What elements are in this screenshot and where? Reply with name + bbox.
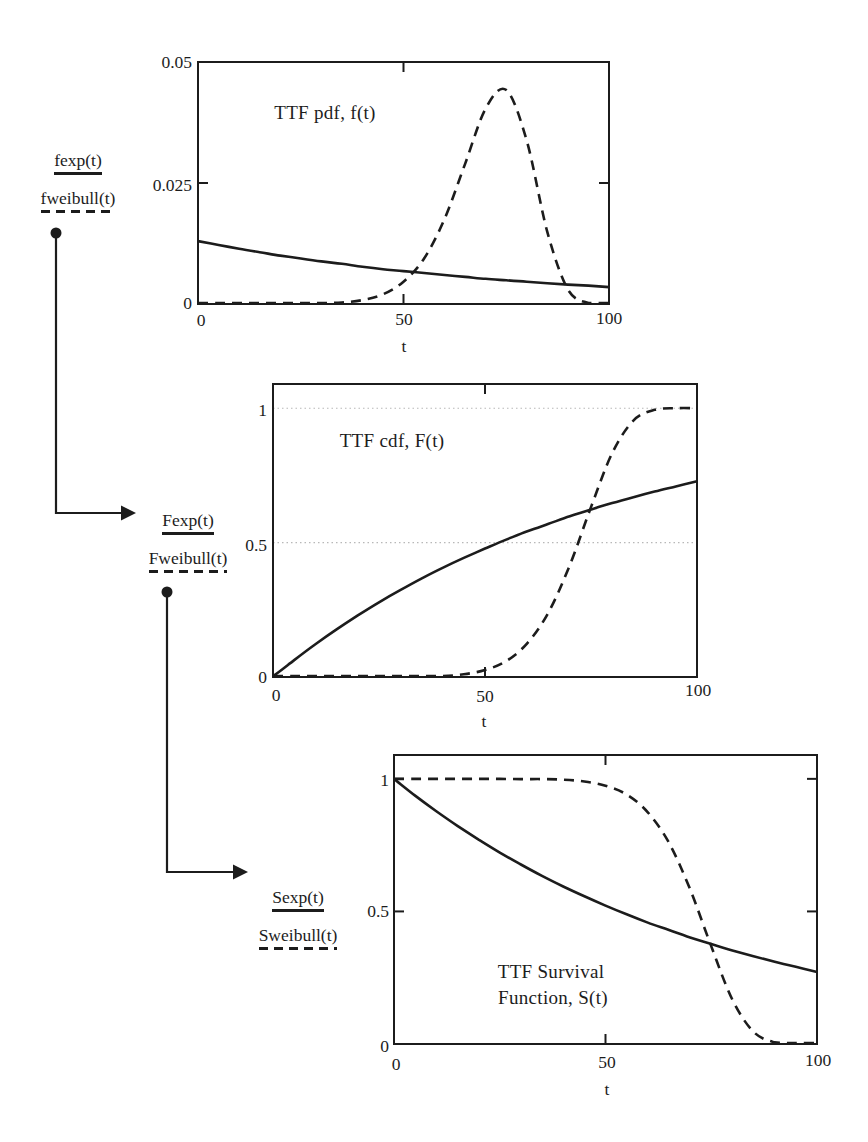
pdf-legend: fexp(t) fweibull(t) — [40, 150, 116, 213]
survival-ytick-0.5: 0.5 — [367, 903, 389, 921]
connector-pdf-to-cdf-legend-line — [56, 233, 123, 513]
survival-legend-item-weibull: Sweibull(t) — [259, 925, 338, 950]
pdf-xaxis-label: t — [402, 338, 407, 356]
pdf-legend-item-weibull: fweibull(t) — [41, 188, 116, 213]
cdf-chart-title: TTF cdf, F(t) — [340, 431, 445, 450]
cdf-xaxis-label: t — [482, 713, 487, 731]
cdf-ytick-0: 0 — [258, 669, 267, 687]
dashed-line-key-icon — [259, 947, 338, 950]
cdf-legend-label-exp: Fexp(t) — [162, 510, 214, 530]
cdf-xtick-50: 50 — [476, 688, 494, 706]
cdf-legend-item-weibull: Fweibull(t) — [149, 548, 228, 573]
cdf-legend-label-weibull: Fweibull(t) — [149, 548, 228, 568]
survival-legend-item-exp: Sexp(t) — [272, 887, 324, 912]
ttf-pdf-plot-frame — [198, 62, 609, 304]
ttf-cdf-weibull-curve-dashed — [273, 408, 697, 676]
pdf-ytick-0.025: 0.025 — [153, 177, 192, 195]
survival-xtick-0: 0 — [392, 1056, 401, 1074]
survival-legend: Sexp(t) Sweibull(t) — [251, 887, 345, 950]
survival-chart-title-line1: TTF Survival — [498, 962, 605, 981]
survival-xtick-50: 50 — [598, 1054, 616, 1072]
survival-xaxis-label: t — [605, 1081, 610, 1099]
cdf-legend: Fexp(t) Fweibull(t) — [144, 510, 232, 573]
pdf-legend-item-exp: fexp(t) — [54, 150, 102, 175]
ttf-cdf-exp-curve-solid — [273, 481, 697, 676]
survival-legend-label-weibull: Sweibull(t) — [259, 925, 338, 945]
cdf-xtick-100: 100 — [685, 682, 711, 700]
solid-line-key-icon — [54, 172, 102, 175]
pdf-ytick-0: 0 — [183, 295, 192, 313]
solid-line-key-icon — [162, 532, 214, 535]
cdf-xtick-0: 0 — [272, 687, 281, 705]
cdf-ytick-0.5: 0.5 — [245, 537, 267, 555]
pdf-legend-label-exp: fexp(t) — [54, 150, 102, 170]
pdf-legend-label-weibull: fweibull(t) — [41, 188, 116, 208]
connector-pdf-to-cdf-legend-arrowhead-icon — [121, 506, 136, 521]
connector-cdf-to-survival-legend-arrowhead-icon — [233, 865, 248, 880]
survival-legend-label-exp: Sexp(t) — [272, 887, 324, 907]
survival-xtick-100: 100 — [805, 1052, 831, 1070]
survival-ytick-0: 0 — [380, 1038, 389, 1056]
pdf-ytick-0.05: 0.05 — [161, 54, 192, 72]
connector-cdf-to-survival-legend-line — [167, 592, 235, 872]
survival-ytick-1: 1 — [380, 772, 389, 790]
dashed-line-key-icon — [149, 570, 228, 573]
ttf-survival-exp-curve-solid — [394, 779, 817, 972]
pdf-chart-title: TTF pdf, f(t) — [274, 103, 376, 122]
cdf-ytick-1: 1 — [258, 402, 267, 420]
cdf-legend-item-exp: Fexp(t) — [162, 510, 214, 535]
ttf-cdf-plot-frame — [273, 384, 697, 677]
figure-canvas — [0, 0, 868, 1142]
dashed-line-key-icon — [41, 210, 116, 213]
reliability-figure: TTF pdf, f(t) 0.05 0.025 0 0 50 100 t fe… — [0, 0, 868, 1142]
solid-line-key-icon — [272, 909, 324, 912]
survival-chart-title-line2: Function, S(t) — [498, 988, 608, 1007]
pdf-xtick-0: 0 — [197, 312, 206, 330]
pdf-xtick-50: 50 — [395, 311, 413, 329]
pdf-xtick-100: 100 — [596, 310, 622, 328]
